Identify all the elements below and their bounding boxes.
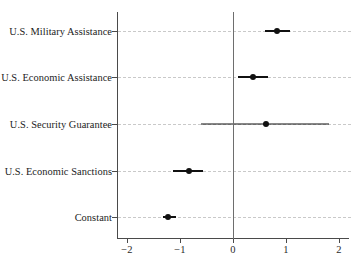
y-axis-category-label: U.S. Economic Assistance: [1, 72, 112, 83]
x-axis-tick-label: −1: [174, 244, 186, 255]
y-axis-tick: [112, 171, 118, 172]
y-axis-tick: [112, 217, 118, 218]
point-estimate-marker: [186, 168, 192, 174]
x-axis-tick: [233, 239, 234, 243]
y-axis-tick: [112, 31, 118, 32]
row-gridline: [118, 77, 351, 78]
row-gridline: [118, 217, 351, 218]
row-gridline: [118, 171, 351, 172]
y-axis-category-label: U.S. Military Assistance: [9, 26, 112, 37]
x-axis-tick: [339, 239, 340, 243]
x-axis-tick-label: 2: [336, 244, 341, 255]
y-axis-category-label: Constant: [75, 212, 112, 223]
y-axis-category-label: U.S. Security Guarantee: [10, 119, 112, 130]
y-axis-tick: [112, 77, 118, 78]
x-axis-tick: [286, 239, 287, 243]
point-estimate-marker: [165, 214, 171, 220]
x-axis-tick-label: −2: [121, 244, 133, 255]
point-estimate-marker: [263, 121, 269, 127]
zero-reference-line: [233, 12, 234, 239]
y-axis-category-label: U.S. Economic Sanctions: [5, 166, 112, 177]
x-axis-tick: [127, 239, 128, 243]
coefficient-plot-figure: −2−1012U.S. Military AssistanceU.S. Econ…: [0, 0, 355, 267]
point-estimate-marker: [274, 28, 280, 34]
y-axis-spine: [117, 12, 118, 239]
x-axis-tick: [180, 239, 181, 243]
x-axis-tick-label: 0: [230, 244, 235, 255]
y-axis-tick: [112, 124, 118, 125]
x-axis-tick-label: 1: [283, 244, 288, 255]
point-estimate-marker: [250, 74, 256, 80]
row-gridline: [118, 31, 351, 32]
